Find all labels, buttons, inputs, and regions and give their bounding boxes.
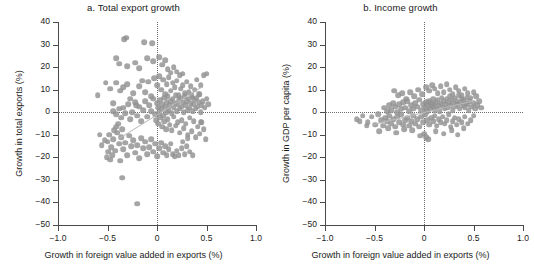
- data-point: [377, 129, 383, 135]
- y-tick: [53, 90, 58, 91]
- data-point: [191, 118, 197, 124]
- y-tick-label: 0: [267, 106, 317, 116]
- x-tick-label: 0.5: [201, 233, 213, 243]
- x-tick: [108, 226, 109, 231]
- data-point: [164, 152, 170, 158]
- data-point: [154, 153, 160, 159]
- data-point: [174, 78, 180, 84]
- data-point: [183, 121, 189, 127]
- panel-b-x-axis-label: Growth in foreign value added in exports…: [267, 250, 534, 260]
- data-point: [386, 125, 392, 131]
- y-tick-label: 20: [0, 61, 50, 71]
- data-point: [477, 98, 483, 104]
- data-point: [180, 71, 186, 77]
- y-tick: [53, 157, 58, 158]
- y-tick-label: 30: [0, 39, 50, 49]
- data-point: [123, 140, 129, 146]
- y-tick-label: 20: [267, 61, 317, 71]
- data-point: [103, 80, 109, 86]
- data-point: [142, 139, 148, 145]
- data-point: [125, 102, 131, 108]
- data-point: [206, 102, 212, 108]
- panel-b-y-axis-label: Growth in GDP per capita (%): [281, 22, 291, 225]
- data-point: [164, 81, 170, 87]
- data-point: [140, 107, 146, 113]
- x-tick: [325, 226, 326, 231]
- y-tick-label: 10: [0, 84, 50, 94]
- panel-a-plot-area: [58, 22, 256, 225]
- x-tick-label: −0.5: [366, 233, 383, 243]
- y-tick: [53, 135, 58, 136]
- y-tick: [320, 157, 325, 158]
- data-point: [134, 142, 140, 148]
- x-tick: [375, 226, 376, 231]
- data-point: [433, 129, 439, 135]
- data-point: [399, 90, 405, 96]
- x-tick-label: 1.0: [517, 233, 529, 243]
- data-point: [364, 123, 370, 129]
- data-point: [455, 132, 461, 138]
- x-tick-label: 0: [155, 233, 160, 243]
- data-point: [117, 141, 123, 147]
- data-point: [144, 151, 150, 157]
- x-tick-label: −0.5: [99, 233, 116, 243]
- data-point: [136, 65, 142, 71]
- data-point: [125, 152, 131, 158]
- y-tick-label: 40: [267, 16, 317, 26]
- data-point: [97, 132, 103, 138]
- panel-a-x-axis-label: Growth in foreign value added in exports…: [0, 250, 267, 260]
- y-tick-label: −20: [0, 151, 50, 161]
- x-tick: [157, 226, 158, 231]
- data-point: [426, 88, 432, 94]
- y-tick: [53, 67, 58, 68]
- x-tick-label: 1.0: [250, 233, 262, 243]
- data-point: [128, 143, 134, 149]
- x-tick-label: −1.0: [317, 233, 334, 243]
- data-point: [139, 78, 145, 84]
- data-point: [110, 152, 116, 158]
- y-tick: [320, 45, 325, 46]
- data-point: [111, 136, 117, 142]
- data-point: [145, 79, 151, 85]
- data-point: [441, 131, 447, 137]
- data-point: [168, 141, 174, 147]
- y-tick: [320, 202, 325, 203]
- data-point: [150, 59, 156, 65]
- data-point: [204, 71, 210, 77]
- data-point: [197, 91, 203, 97]
- data-point: [357, 118, 363, 124]
- data-point: [172, 85, 178, 91]
- x-tick: [424, 226, 425, 231]
- data-point: [479, 105, 485, 111]
- data-point: [134, 113, 140, 119]
- data-point: [449, 127, 455, 133]
- y-tick-label: −30: [267, 174, 317, 184]
- data-point: [136, 83, 142, 89]
- data-point: [123, 111, 129, 117]
- data-point: [423, 134, 429, 140]
- panel-a: a. Total export growth −50−40−30−20−1001…: [0, 0, 267, 278]
- y-tick: [53, 180, 58, 181]
- data-point: [461, 125, 467, 131]
- data-point: [141, 40, 147, 46]
- data-point: [121, 147, 127, 153]
- y-tick-label: −20: [267, 151, 317, 161]
- data-point: [111, 100, 117, 106]
- y-tick-label: 0: [0, 106, 50, 116]
- y-tick: [320, 180, 325, 181]
- data-point: [162, 58, 168, 64]
- y-tick-label: 40: [0, 16, 50, 26]
- data-point: [134, 201, 140, 207]
- data-point: [185, 135, 191, 141]
- x-tick: [58, 226, 59, 231]
- data-point: [144, 55, 150, 61]
- y-tick-label: −40: [0, 196, 50, 206]
- y-tick-label: −10: [267, 129, 317, 139]
- y-tick-label: −30: [0, 174, 50, 184]
- data-point: [116, 121, 122, 127]
- x-tick: [256, 226, 257, 231]
- y-tick: [53, 45, 58, 46]
- x-tick: [474, 226, 475, 231]
- data-point: [114, 80, 120, 86]
- data-point: [125, 63, 131, 69]
